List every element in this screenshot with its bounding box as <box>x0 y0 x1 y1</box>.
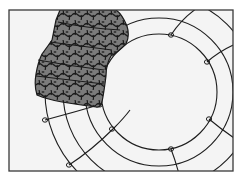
wreath-frame-illustration <box>0 0 243 180</box>
illustration-stage <box>0 0 243 180</box>
